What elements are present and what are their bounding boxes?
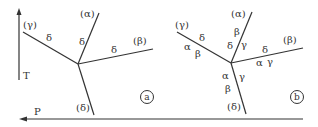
p-axis-arrowhead-icon [19,117,27,122]
b-alpha-right-label: γ [241,40,247,50]
b-delta-right-label: γ [239,72,245,82]
b-beta-top-label: δ [262,45,268,55]
panel-a-badge: a [140,90,154,104]
a-beta-line-label: δ [111,45,117,55]
b-phase-delta: (δ) [227,102,241,112]
b-alpha-boundary [231,12,252,63]
phase-diagram: T P (γ) (α) (β) (δ) δ δ δ a (γ) (α) (β) … [0,0,318,127]
b-beta-bot-label-2: γ [267,57,273,67]
a-phase-gamma: (γ) [23,20,37,30]
b-beta-bot-label-1: α [256,58,263,68]
t-axis-arrowhead-icon [17,8,22,15]
t-axis-label: T [23,71,30,81]
b-alpha-left-label-1: β [234,27,240,37]
a-gamma-line-label: δ [46,33,52,43]
b-delta-left-label-2: β [225,84,231,94]
a-alpha-line-label: δ [79,37,85,47]
p-axis-label: P [34,107,41,117]
b-phase-gamma: (γ) [175,20,189,30]
b-phase-beta: (β) [283,35,297,45]
a-phase-alpha: (α) [80,9,95,19]
a-phase-delta: (δ) [76,103,90,113]
panel-b-badge: b [290,90,304,104]
b-gamma-top-label: δ [199,33,205,43]
b-delta-left-label-1: α [222,71,229,81]
b-gamma-bot-label-2: β [195,49,201,59]
a-phase-beta: (β) [133,36,147,46]
b-alpha-left-label-2: δ [227,41,233,51]
b-phase-alpha: (α) [231,9,246,19]
b-gamma-bot-label-1: α [184,42,191,52]
